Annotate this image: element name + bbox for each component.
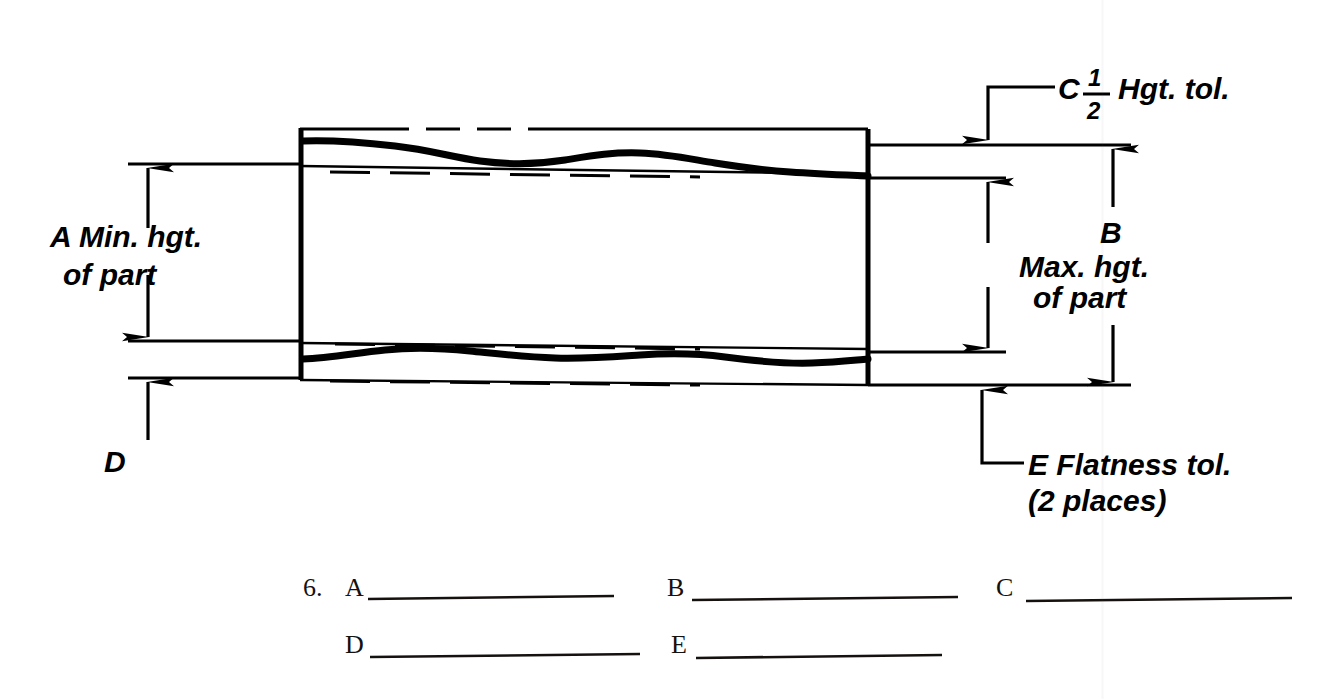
min-height-dashed-top [330, 172, 700, 177]
dimension-e: E Flatness tol. (2 places) [982, 390, 1231, 517]
label-d: D [104, 445, 126, 478]
label-c-fraction-numerator: 1 [1088, 64, 1101, 91]
dimension-c: C 1 2 Hgt. tol. [988, 64, 1230, 140]
label-c-suffix: Hgt. tol. [1118, 72, 1230, 105]
e-leader-line [982, 390, 1024, 463]
dimension-d: D [104, 382, 148, 478]
bottom-surface-profile-wavy [303, 348, 868, 363]
label-e-line2: (2 places) [1028, 484, 1166, 517]
label-c-fraction-denominator: 2 [1086, 97, 1101, 124]
dimension-b: B Max. hgt. of part [1019, 149, 1149, 382]
answer-label-d: D [345, 630, 364, 659]
answer-label-a: A [345, 573, 364, 602]
answer-blank-b[interactable] [692, 597, 958, 600]
answer-label-c: C [996, 573, 1013, 602]
label-a-line2: of part [63, 258, 158, 291]
label-b-line1: B [1100, 216, 1122, 249]
answer-blank-d[interactable] [370, 654, 640, 657]
dimension-a: A Min. hgt. of part [49, 168, 202, 337]
label-c-prefix: C [1058, 72, 1081, 105]
label-b-line2: Max. hgt. [1019, 250, 1149, 283]
worksheet-page: A Min. hgt. of part D B Max. hgt. of par… [0, 0, 1343, 699]
label-a-line1: A Min. hgt. [49, 220, 202, 253]
answer-blank-e[interactable] [696, 655, 942, 658]
technical-drawing: A Min. hgt. of part D B Max. hgt. of par… [0, 0, 1343, 699]
answer-blank-a[interactable] [368, 596, 614, 599]
question-number: 6. [303, 573, 323, 602]
label-e-line1: E Flatness tol. [1028, 448, 1231, 481]
min-height-reference-bottom [128, 341, 868, 349]
answer-blanks: 6. A B C D E [303, 573, 1292, 659]
answer-label-e: E [671, 630, 687, 659]
min-height-dashed-top-seg [330, 172, 700, 177]
answer-blank-c[interactable] [1026, 598, 1292, 601]
c-leader-line [988, 87, 1055, 140]
answer-label-b: B [667, 573, 684, 602]
label-b-line3: of part [1033, 281, 1128, 314]
